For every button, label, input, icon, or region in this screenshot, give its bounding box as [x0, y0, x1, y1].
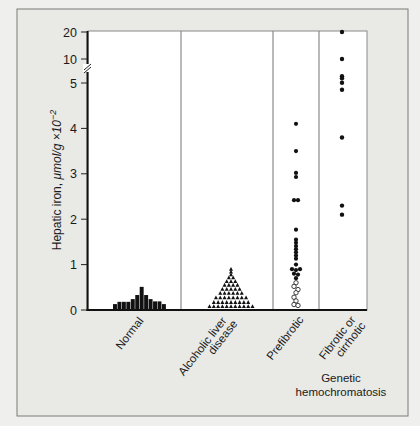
filled-circle-marker — [340, 57, 344, 61]
histogram-bar — [131, 299, 135, 310]
filled-circle-marker — [294, 171, 298, 175]
histogram-bar — [158, 301, 162, 310]
filled-circle-marker — [294, 263, 298, 267]
filled-circle-marker — [292, 272, 296, 276]
y-tick-label: 2 — [70, 213, 77, 227]
group-label-line1: Genetic — [321, 372, 361, 384]
filled-circle-marker — [340, 212, 344, 216]
filled-circle-marker — [294, 257, 298, 261]
group-label-line2: hemochromatosis — [296, 386, 387, 398]
y-tick-label: 20 — [63, 26, 77, 40]
plot-area — [88, 31, 367, 310]
open-circle-marker — [292, 284, 296, 288]
y-tick-label: 5 — [70, 77, 77, 91]
filled-circle-marker — [298, 267, 302, 271]
filled-circle-marker — [296, 272, 300, 276]
filled-circle-marker — [340, 81, 344, 85]
y-axis-title-plain: Hepatic iron, — [50, 180, 64, 251]
y-tick-label: 3 — [70, 167, 77, 181]
filled-circle-marker — [340, 88, 344, 92]
y-tick-label: 10 — [63, 53, 77, 67]
y-tick-label: 0 — [70, 304, 77, 318]
filled-circle-marker — [294, 268, 298, 272]
axis-break-icon — [83, 64, 92, 73]
filled-circle-marker — [340, 203, 344, 207]
histogram-bar — [149, 299, 153, 310]
filled-circle-marker — [340, 30, 344, 34]
figure-panel: 0123451020 Hepatic iron, μmol/g ×10−2 No… — [0, 0, 420, 426]
filled-circle-marker — [340, 76, 344, 80]
filled-circle-marker — [296, 198, 300, 202]
filled-circle-marker — [294, 276, 298, 280]
y-axis-title: Hepatic iron, μmol/g ×10−2 — [48, 110, 64, 251]
filled-circle-marker — [294, 149, 298, 153]
histogram-bar — [144, 295, 148, 310]
y-tick-label: 4 — [70, 122, 77, 136]
histogram-bar — [140, 287, 144, 310]
filled-circle-marker — [294, 228, 298, 232]
filled-circle-marker — [294, 175, 298, 179]
open-circle-marker — [296, 303, 300, 307]
y-axis-title-exponent: −2 — [48, 110, 58, 120]
filled-circle-marker — [340, 135, 344, 139]
y-axis-title-units: μmol/g ×10 — [50, 120, 64, 181]
histogram-bar — [135, 295, 139, 310]
filled-circle-marker — [294, 122, 298, 126]
histogram-bar — [153, 301, 157, 310]
filled-circle-marker — [290, 267, 294, 271]
histogram-bar — [117, 302, 121, 310]
filled-circle-marker — [292, 198, 296, 202]
histogram-bar — [126, 302, 130, 310]
histogram-bar — [122, 302, 126, 310]
y-tick-label: 1 — [70, 258, 77, 272]
open-circle-marker — [294, 291, 298, 295]
